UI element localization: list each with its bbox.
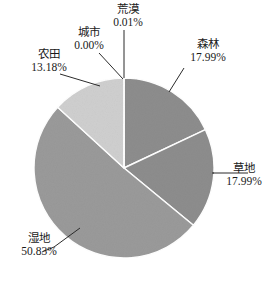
pie-slices-group bbox=[34, 78, 214, 258]
slice-label-farmland-pct: 13.18% bbox=[20, 61, 78, 74]
slice-label-urban-name: 城市 bbox=[62, 26, 116, 39]
pie-chart-figure: 荒漠 0.01% 城市 0.00% 农田 13.18% 森林 17.99% 草地… bbox=[0, 0, 276, 283]
slice-label-wetland: 湿地 50.83% bbox=[10, 232, 68, 258]
slice-label-forest: 森林 17.99% bbox=[180, 38, 236, 64]
slice-label-desert: 荒漠 0.01% bbox=[101, 3, 155, 29]
slice-label-grass: 草地 17.99% bbox=[216, 162, 272, 188]
slice-label-farmland: 农田 13.18% bbox=[20, 48, 78, 74]
slice-label-farmland-name: 农田 bbox=[20, 48, 78, 61]
leader-line-urban bbox=[99, 53, 123, 79]
slice-label-grass-pct: 17.99% bbox=[216, 175, 272, 188]
slice-label-wetland-pct: 50.83% bbox=[10, 245, 68, 258]
slice-label-desert-name: 荒漠 bbox=[101, 3, 155, 16]
slice-label-forest-name: 森林 bbox=[180, 38, 236, 51]
leader-line-forest bbox=[169, 68, 184, 92]
leader-line-farmland bbox=[60, 74, 100, 86]
slice-label-forest-pct: 17.99% bbox=[180, 51, 236, 64]
slice-label-wetland-name: 湿地 bbox=[10, 232, 68, 245]
slice-label-grass-name: 草地 bbox=[216, 162, 272, 175]
